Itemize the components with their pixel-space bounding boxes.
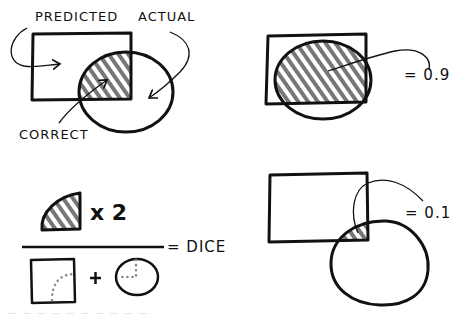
panel-low-overlap xyxy=(269,173,429,305)
dice-result-label: = DICE xyxy=(167,238,226,256)
figure-caption: — — — — — — — — — — xyxy=(8,309,149,318)
actual-arrow xyxy=(149,32,189,98)
actual-label: ACTUAL xyxy=(138,9,195,24)
panel-overlap-legend xyxy=(11,28,189,132)
actual-ellipse xyxy=(331,221,428,305)
predicted-label: PREDICTED xyxy=(35,9,118,24)
ellipse-dotted-corner xyxy=(118,260,136,277)
low-overlap-value: = 0.1 xyxy=(405,204,451,222)
diagram-canvas xyxy=(0,0,457,319)
predicted-square-icon xyxy=(31,259,75,303)
square-dotted-arc xyxy=(52,274,73,300)
numerator-multiplier: x 2 xyxy=(90,200,127,225)
correct-label: CORRECT xyxy=(19,127,89,142)
high-overlap-value: = 0.9 xyxy=(404,66,450,84)
intersection-quarter xyxy=(42,193,80,230)
plus-icon xyxy=(90,272,101,284)
